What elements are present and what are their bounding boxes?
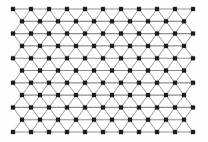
lattice-node <box>110 69 114 73</box>
lattice-node <box>155 7 159 11</box>
lattice-node <box>146 19 150 23</box>
lattice-node <box>155 105 159 109</box>
lattice-node <box>137 130 141 134</box>
lattice-node <box>56 93 60 97</box>
lattice-node <box>38 19 42 23</box>
lattice-node <box>164 44 168 48</box>
lattice-node <box>173 105 177 109</box>
lattice-node <box>92 118 96 122</box>
lattice-node <box>29 81 33 85</box>
lattice-node <box>65 32 69 36</box>
lattice-node <box>191 32 195 36</box>
lattice-canvas <box>0 0 208 142</box>
lattice-node <box>191 7 195 11</box>
lattice-node <box>56 19 60 23</box>
lattice-node <box>182 19 186 23</box>
lattice-node <box>83 105 87 109</box>
lattice-node <box>155 81 159 85</box>
lattice-node <box>11 81 15 85</box>
lattice-node <box>119 7 123 11</box>
lattice-node <box>137 7 141 11</box>
lattice-node <box>65 56 69 60</box>
lattice-node <box>182 44 186 48</box>
lattice-node <box>155 130 159 134</box>
lattice-node <box>128 19 132 23</box>
lattice-node <box>56 118 60 122</box>
lattice-node <box>128 69 132 73</box>
lattice-node <box>20 118 24 122</box>
lattice-node <box>119 32 123 36</box>
lattice-node <box>47 7 51 11</box>
lattice-node <box>146 44 150 48</box>
lattice-node <box>29 7 33 11</box>
lattice-node <box>20 19 24 23</box>
lattice-node <box>101 81 105 85</box>
lattice-node <box>74 44 78 48</box>
lattice-node <box>47 130 51 134</box>
lattice-node <box>65 7 69 11</box>
lattice-figure <box>0 0 208 142</box>
lattice-node <box>29 130 33 134</box>
lattice-node <box>83 32 87 36</box>
lattice-node <box>164 93 168 97</box>
lattice-node <box>101 56 105 60</box>
lattice-node <box>137 105 141 109</box>
lattice-node <box>20 44 24 48</box>
lattice-node <box>74 19 78 23</box>
lattice-node <box>11 32 15 36</box>
lattice-node <box>47 105 51 109</box>
lattice-node <box>83 130 87 134</box>
lattice-node <box>173 56 177 60</box>
lattice-node <box>65 130 69 134</box>
lattice-node <box>29 32 33 36</box>
lattice-node <box>83 56 87 60</box>
lattice-node <box>182 93 186 97</box>
lattice-node <box>110 19 114 23</box>
lattice-node <box>92 69 96 73</box>
lattice-node <box>92 19 96 23</box>
lattice-node <box>56 69 60 73</box>
lattice-node <box>119 56 123 60</box>
lattice-node <box>83 81 87 85</box>
lattice-node <box>164 69 168 73</box>
lattice-node <box>191 56 195 60</box>
lattice-node <box>110 118 114 122</box>
lattice-node <box>38 69 42 73</box>
lattice-node <box>47 56 51 60</box>
lattice-node <box>65 105 69 109</box>
lattice-node <box>56 44 60 48</box>
lattice-node <box>92 93 96 97</box>
lattice-node <box>119 81 123 85</box>
lattice-node <box>11 130 15 134</box>
lattice-node <box>173 81 177 85</box>
lattice-node <box>146 118 150 122</box>
lattice-node <box>20 69 24 73</box>
lattice-node <box>137 81 141 85</box>
lattice-node <box>101 105 105 109</box>
lattice-node <box>119 105 123 109</box>
lattice-node <box>173 7 177 11</box>
lattice-node <box>74 93 78 97</box>
lattice-node <box>182 69 186 73</box>
lattice-node <box>173 130 177 134</box>
lattice-node <box>128 118 132 122</box>
lattice-node <box>47 32 51 36</box>
lattice-node <box>137 56 141 60</box>
lattice-node <box>101 7 105 11</box>
lattice-node <box>191 130 195 134</box>
lattice-node <box>101 130 105 134</box>
lattice-node <box>29 56 33 60</box>
lattice-node <box>11 7 15 11</box>
lattice-node <box>74 69 78 73</box>
lattice-node <box>47 81 51 85</box>
lattice-node <box>92 44 96 48</box>
lattice-node <box>191 81 195 85</box>
lattice-node <box>38 93 42 97</box>
lattice-node <box>119 130 123 134</box>
lattice-node <box>110 44 114 48</box>
lattice-node <box>191 105 195 109</box>
lattice-node <box>29 105 33 109</box>
lattice-node <box>164 19 168 23</box>
lattice-node <box>137 32 141 36</box>
lattice-node <box>110 93 114 97</box>
